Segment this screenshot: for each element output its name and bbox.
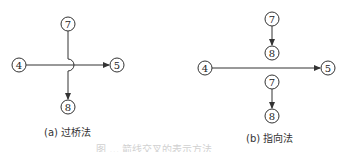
node-4: 4 xyxy=(12,58,26,72)
svg-text:5: 5 xyxy=(325,63,331,74)
node-8: 8 xyxy=(61,100,75,114)
panel-b-pointing-method: 7 8 4 5 7 8 xyxy=(198,12,335,123)
node-7-lower: 7 xyxy=(265,75,279,89)
svg-text:8: 8 xyxy=(269,111,275,122)
svg-text:5: 5 xyxy=(114,60,120,71)
panel-a-bridge-method: 7 4 5 8 xyxy=(12,17,124,114)
node-4: 4 xyxy=(198,61,212,75)
node-7-upper: 7 xyxy=(265,12,279,26)
svg-text:7: 7 xyxy=(269,77,275,88)
node-7: 7 xyxy=(61,17,75,31)
svg-text:4: 4 xyxy=(16,60,22,71)
figure-caption: 图 … 箭线交叉的表示方法 xyxy=(96,141,212,152)
node-8-upper: 8 xyxy=(265,46,279,60)
node-5: 5 xyxy=(110,58,124,72)
node-5: 5 xyxy=(321,61,335,75)
panel-b-caption: (b) 指向法 xyxy=(246,130,293,145)
node-8-lower: 8 xyxy=(265,109,279,123)
svg-text:4: 4 xyxy=(202,63,208,74)
svg-text:7: 7 xyxy=(269,14,275,25)
svg-text:8: 8 xyxy=(65,102,71,113)
svg-text:8: 8 xyxy=(269,48,275,59)
panel-a-caption: (a) 过桥法 xyxy=(44,124,91,139)
svg-text:7: 7 xyxy=(65,19,71,30)
